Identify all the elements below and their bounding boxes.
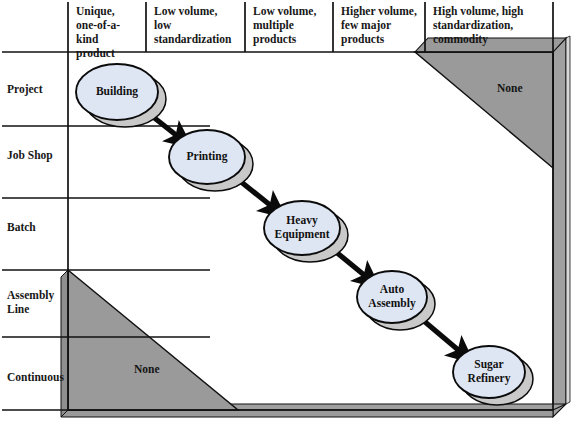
node-heavy-equipment[interactable] <box>264 201 348 262</box>
column-header-low-volume-low-std-line2: low <box>154 18 242 32</box>
frame-bottom-lip <box>61 410 553 417</box>
column-header-low-volume-low-std-line1: Low volume, <box>154 4 242 18</box>
column-header-higher-volume-line3: products <box>341 32 425 46</box>
node-sugar-refinery-body <box>453 346 525 398</box>
row-label-batch: Batch <box>7 221 36 235</box>
matrix-canvas <box>0 0 571 421</box>
none-label-lower-left: None <box>134 363 160 375</box>
node-printing[interactable] <box>169 130 253 191</box>
column-header-high-volume-commodity-line3: commodity <box>433 32 551 46</box>
node-sugar-refinery[interactable] <box>453 346 533 405</box>
column-header-higher-volume-line2: few major <box>341 18 425 32</box>
column-header-unique-line1: Unique, <box>76 4 142 18</box>
column-header-low-volume-low-std-line3: standardization <box>154 32 242 46</box>
column-header-unique-line3: product <box>76 46 142 60</box>
none-region-upper-right-main <box>415 52 553 168</box>
node-heavy-equipment-body <box>264 201 340 255</box>
column-header-higher-volume-line1: Higher volume, <box>341 4 425 18</box>
row-label-job-shop: Job Shop <box>7 149 53 163</box>
node-auto-assembly[interactable] <box>357 271 435 330</box>
frame-right-highlight <box>566 36 570 404</box>
node-building-body <box>76 64 158 120</box>
column-header-low-volume-multiple-line3: products <box>253 32 331 46</box>
column-header-low-volume-multiple-line2: multiple <box>253 18 331 32</box>
node-printing-body <box>169 130 245 184</box>
column-header-high-volume-commodity-line1: High volume, high <box>433 4 551 18</box>
column-header-unique: Unique, one-of-a-kind product <box>76 4 142 60</box>
row-label-project: Project <box>7 83 43 97</box>
frame-right-panel <box>553 38 566 417</box>
none-label-upper-right: None <box>497 82 523 94</box>
column-header-high-volume-commodity: High volume, high standardization, commo… <box>433 4 551 46</box>
node-auto-assembly-body <box>357 271 427 323</box>
column-header-higher-volume: Higher volume, few major products <box>341 4 425 46</box>
row-label-assembly-line: Assembly Line <box>7 289 54 316</box>
none-region-lower-left-main <box>68 270 238 410</box>
column-header-unique-line2: one-of-a-kind <box>76 18 142 46</box>
product-process-matrix-diagram: Unique, one-of-a-kind product Low volume… <box>0 0 571 421</box>
column-header-low-volume-multiple: Low volume, multiple products <box>253 4 331 46</box>
row-label-continuous: Continuous <box>7 371 64 385</box>
column-header-low-volume-multiple-line1: Low volume, <box>253 4 331 18</box>
node-building[interactable] <box>76 64 166 127</box>
none-region-lower-left-leftedge <box>61 270 68 417</box>
column-header-low-volume-low-std: Low volume, low standardization <box>154 4 242 46</box>
column-header-high-volume-commodity-line2: standardization, <box>433 18 551 32</box>
